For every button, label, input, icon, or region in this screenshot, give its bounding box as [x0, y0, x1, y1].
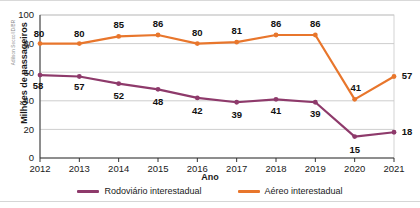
x-tick-label: 2012: [29, 163, 50, 174]
data-point-label: 39: [310, 108, 321, 119]
data-point-label: 41: [271, 105, 282, 116]
plot-border: [40, 15, 394, 158]
x-tick-label: 2021: [383, 163, 404, 174]
data-point: [274, 97, 279, 102]
data-point-label: 86: [271, 18, 282, 29]
data-point: [195, 41, 200, 46]
data-point-label: 58: [33, 80, 44, 91]
y-tick-label: 100: [18, 9, 34, 20]
data-point-label: 15: [349, 144, 360, 155]
data-point-label: 80: [34, 28, 45, 39]
data-point: [156, 87, 161, 92]
y-tick-label: 0: [29, 152, 34, 163]
data-point: [38, 41, 43, 46]
x-tick-label: 2020: [344, 163, 365, 174]
data-point: [313, 100, 318, 105]
data-point: [274, 33, 279, 38]
data-point: [352, 97, 357, 102]
x-tick-label: 2014: [108, 163, 129, 174]
data-point: [77, 41, 82, 46]
legend-item-aereo: Aéreo interestadual: [238, 186, 343, 196]
legend-swatch-aereo: [238, 190, 260, 193]
data-point-label: 80: [192, 27, 203, 38]
legend-label-rodoviario: Rodoviário interestadual: [104, 186, 201, 196]
data-point-label: 57: [74, 81, 85, 92]
data-point-label: 80: [74, 28, 85, 39]
y-tick-label: 80: [23, 38, 34, 49]
data-point-label: 52: [113, 90, 124, 101]
y-tick-label: 20: [23, 124, 34, 135]
data-point-label: 81: [231, 25, 242, 36]
data-point: [392, 74, 397, 79]
line-chart-plot: 0204060801002012201320142015201620172018…: [0, 0, 420, 208]
data-point: [116, 81, 121, 86]
legend-label-aereo: Aéreo interestadual: [265, 186, 343, 196]
data-point-label: 86: [153, 18, 164, 29]
data-point: [234, 100, 239, 105]
data-point: [352, 134, 357, 139]
data-point: [156, 33, 161, 38]
legend-divider: [0, 201, 420, 202]
y-tick-label: 40: [23, 95, 34, 106]
y-tick-label: 60: [23, 67, 34, 78]
data-point-label: 41: [350, 82, 361, 93]
x-tick-label: 2015: [147, 163, 168, 174]
data-point-label: 48: [153, 96, 164, 107]
data-point: [234, 40, 239, 45]
x-tick-label: 2018: [265, 163, 286, 174]
data-point: [77, 74, 82, 79]
x-tick-label: 2016: [187, 163, 208, 174]
x-tick-label: 2013: [69, 163, 90, 174]
legend-swatch-rodoviario: [77, 190, 99, 193]
data-point-label: 18: [402, 126, 413, 137]
data-point-label: 86: [310, 18, 321, 29]
x-tick-label: 2019: [305, 163, 326, 174]
chart-legend: Rodoviário interestadual Aéreo interesta…: [0, 186, 420, 196]
data-point: [38, 73, 43, 78]
chart-figure: Adilson Secco/ID/BR Milhões de passageir…: [0, 0, 420, 208]
data-point: [313, 33, 318, 38]
series-line: [40, 75, 394, 136]
data-point-label: 85: [113, 19, 124, 30]
legend-item-rodoviario: Rodoviário interestadual: [77, 186, 201, 196]
data-point-label: 42: [192, 105, 203, 116]
data-point-label: 57: [402, 70, 413, 81]
data-point: [392, 130, 397, 135]
series-line: [40, 35, 394, 99]
data-point: [195, 96, 200, 101]
x-tick-label: 2017: [226, 163, 247, 174]
data-point-label: 39: [231, 109, 242, 120]
data-point: [116, 34, 121, 39]
